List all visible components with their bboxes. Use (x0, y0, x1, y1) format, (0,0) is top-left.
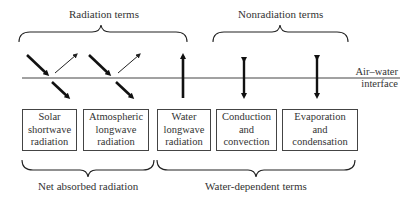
box-line: Evaporation (292, 111, 347, 124)
box-line: radiation (89, 136, 143, 149)
atmospheric-reflected-arrow (118, 55, 139, 73)
evaporation-condensation-box: Evaporation and condensation (282, 109, 358, 151)
radiation-terms-brace (19, 25, 187, 42)
box-line: Atmospheric (89, 111, 143, 124)
radiation-terms-label: Radiation terms (69, 8, 139, 20)
box-line: longwave (89, 124, 143, 137)
solar-shortwave-box: Solar shortwave radiation (22, 109, 77, 151)
nonradiation-terms-brace (213, 25, 348, 42)
box-line: Water (164, 111, 205, 124)
box-line: and (222, 124, 271, 137)
air-water-interface-label: Air–water interface (340, 66, 398, 90)
solar-incoming-arrow (27, 55, 47, 74)
box-line: Solar (28, 111, 71, 124)
water-longwave-box: Water longwave radiation (157, 109, 211, 151)
box-line: longwave (164, 124, 205, 137)
solar-transmitted-arrow (52, 82, 68, 97)
nonradiation-terms-label: Nonradiation terms (238, 8, 323, 20)
solar-reflected-arrow (55, 55, 76, 73)
diagram-canvas (0, 0, 400, 198)
box-line: convection (222, 136, 271, 149)
conduction-convection-box: Conduction and convection (216, 109, 277, 151)
box-line: shortwave (28, 124, 71, 137)
box-line: radiation (164, 136, 205, 149)
interface-label-line1: Air–water (340, 66, 398, 78)
atmospheric-transmitted-arrow (116, 82, 132, 97)
box-line: and (292, 124, 347, 137)
box-line: Conduction (222, 111, 271, 124)
atmospheric-incoming-arrow (89, 55, 109, 74)
net-absorbed-brace (22, 160, 154, 177)
interface-label-line2: interface (340, 78, 398, 90)
water-dependent-brace (157, 160, 355, 177)
box-line: radiation (28, 136, 71, 149)
box-line: condensation (292, 136, 347, 149)
atmospheric-longwave-box: Atmospheric longwave radiation (83, 109, 149, 151)
net-absorbed-radiation-label: Net absorbed radiation (38, 180, 138, 192)
water-dependent-terms-label: Water-dependent terms (205, 180, 307, 192)
